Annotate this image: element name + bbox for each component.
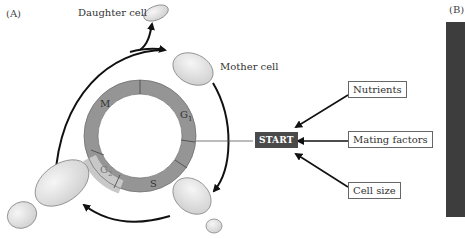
factor-cell-size: Cell size: [348, 182, 401, 199]
cycle-arrow-bottom: [84, 205, 170, 222]
cell-cycle-diagram: [0, 0, 465, 239]
start-checkpoint: START: [255, 132, 298, 148]
phase-m: M: [100, 98, 110, 109]
factor-mating-factors: Mating factors: [348, 131, 433, 148]
arrow-nutrients: [296, 95, 348, 127]
factor-nutrients: Nutrients: [348, 81, 407, 98]
cycle-arrow-right: [213, 83, 229, 191]
daughter-cell-label: Daughter cell: [78, 7, 147, 18]
mother-cell: [168, 47, 219, 92]
phase-s: S: [150, 178, 157, 189]
arrow-cell-size: [296, 154, 348, 187]
phase-g2: G2: [100, 164, 112, 178]
budding-cell-large: [3, 150, 98, 233]
arrow-to-daughter: [140, 24, 152, 50]
mother-cell-label: Mother cell: [220, 61, 279, 72]
micrograph-panel-b: [446, 22, 465, 217]
phase-g1: G1: [180, 109, 192, 123]
